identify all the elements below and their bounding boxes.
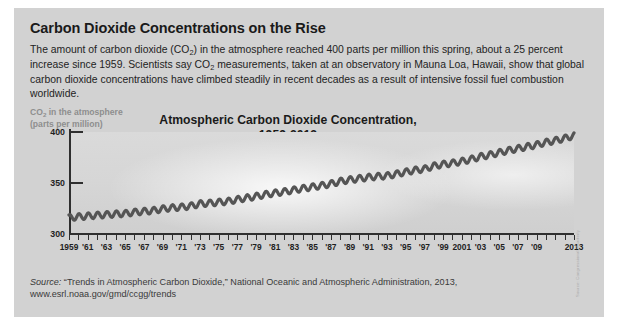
page-title: Carbon Dioxide Concentrations on the Ris… [30, 20, 588, 36]
x-axis-tick-label: '03 [475, 242, 486, 252]
x-axis-tick-label: '83 [288, 242, 299, 252]
plot-area: 300350400 1959'61'63'65'67'69'71'73'75'7… [69, 132, 574, 234]
x-axis-tick [415, 235, 416, 240]
x-axis-tick [387, 235, 388, 240]
x-axis-tick [275, 235, 276, 240]
x-axis-tick-label: '97 [419, 242, 430, 252]
x-axis-tick [396, 235, 397, 240]
x-axis-tick [565, 235, 566, 240]
x-axis-tick [350, 235, 351, 240]
x-axis-tick [527, 235, 528, 240]
source-note: Source: “Trends in Atmospheric Carbon Di… [30, 276, 586, 301]
x-axis-tick [97, 235, 98, 240]
x-axis-tick [340, 235, 341, 240]
x-axis-tick [312, 235, 313, 240]
x-axis-tick-label: '93 [381, 242, 392, 252]
x-axis-tick [106, 235, 107, 240]
x-axis-tick [359, 235, 360, 240]
x-axis-tick [378, 235, 379, 240]
x-axis-tick [518, 235, 519, 240]
x-axis-tick [499, 235, 500, 240]
x-axis-tick-label: '77 [232, 242, 243, 252]
x-axis-tick [153, 235, 154, 240]
x-axis-tick [69, 235, 70, 240]
x-axis-tick-label: '71 [176, 242, 187, 252]
x-axis-tick [134, 235, 135, 240]
x-axis-tick-label: '87 [325, 242, 336, 252]
x-axis-tick [443, 235, 444, 240]
body-paragraph: The amount of carbon dioxide (CO2) in th… [30, 43, 590, 101]
x-axis-tick-label: '63 [101, 242, 112, 252]
x-axis-tick [125, 235, 126, 240]
x-axis-tick [116, 235, 117, 240]
y-axis-caption: CO2 in the atmosphere(parts per million) [30, 107, 123, 129]
x-axis-tick [172, 235, 173, 240]
y-axis-caption-subscript: 2 [43, 111, 46, 118]
y-axis-caption-part-1: CO [30, 107, 43, 117]
x-axis-tick [424, 235, 425, 240]
y-axis-tick-label: 350 [50, 178, 65, 188]
infographic-panel: Carbon Dioxide Concentrations on the Ris… [14, 8, 604, 317]
x-axis-tick-label: 2001 [452, 242, 471, 252]
source-text: “Trends in Atmospheric Carbon Dioxide,” … [30, 277, 457, 299]
x-axis-tick-label: '99 [437, 242, 448, 252]
x-axis-tick [434, 235, 435, 240]
x-axis-tick [555, 235, 556, 240]
x-axis-tick [181, 235, 182, 240]
y-axis-caption-part-2: in the atmosphere [46, 107, 122, 117]
y-axis-caption-units: (parts per million) [30, 119, 103, 129]
x-axis-tick-label: '79 [250, 242, 261, 252]
x-axis-tick-label: '89 [344, 242, 355, 252]
x-axis-tick [406, 235, 407, 240]
x-axis-tick [284, 235, 285, 240]
x-axis-tick [303, 235, 304, 240]
x-axis-tick [452, 235, 453, 240]
x-axis-tick [368, 235, 369, 240]
x-axis-tick [228, 235, 229, 240]
x-axis-tick [537, 235, 538, 240]
x-axis-tick-label: 1959 [60, 242, 79, 252]
x-axis-tick [322, 235, 323, 240]
x-axis-tick [219, 235, 220, 240]
x-axis-tick-label: '07 [512, 242, 523, 252]
x-axis-tick-label: '05 [494, 242, 505, 252]
x-axis-tick [144, 235, 145, 240]
x-axis-tick [509, 235, 510, 240]
y-axis-tick-label: 400 [50, 127, 65, 137]
y-axis-tick-label: 300 [50, 229, 65, 239]
x-axis-tick-label: '09 [531, 242, 542, 252]
x-axis-tick-label: '75 [213, 242, 224, 252]
x-axis-tick [200, 235, 201, 240]
x-axis-tick-label: '91 [363, 242, 374, 252]
x-axis-tick [163, 235, 164, 240]
x-axis-tick [490, 235, 491, 240]
x-axis-tick [237, 235, 238, 240]
x-axis-tick [265, 235, 266, 240]
co2-series-line [69, 132, 574, 234]
deck-part-1: The amount of carbon dioxide (CO [30, 44, 189, 55]
x-axis-tick-label: '61 [82, 242, 93, 252]
x-axis-tick [247, 235, 248, 240]
x-axis-tick [256, 235, 257, 240]
x-axis-tick [331, 235, 332, 240]
x-axis-tick [78, 235, 79, 240]
x-axis-tick-label: '67 [138, 242, 149, 252]
co2-subscript-1: 2 [189, 48, 193, 57]
x-axis-tick-label: '85 [306, 242, 317, 252]
x-axis-tick-label: '65 [119, 242, 130, 252]
x-axis-tick-label: '73 [194, 242, 205, 252]
x-axis-tick [88, 235, 89, 240]
x-axis-tick-label: '95 [400, 242, 411, 252]
x-axis-tick [191, 235, 192, 240]
x-axis-tick [480, 235, 481, 240]
x-axis-tick-label: '81 [269, 242, 280, 252]
x-axis-tick [471, 235, 472, 240]
x-axis-tick [462, 235, 463, 240]
source-label: Source: [30, 277, 61, 287]
x-axis-tick [293, 235, 294, 240]
series-path [69, 133, 574, 220]
x-axis-tick-label: '69 [157, 242, 168, 252]
chart: CO2 in the atmosphere(parts per million)… [30, 107, 588, 259]
x-axis-tick [546, 235, 547, 240]
x-axis-tick [209, 235, 210, 240]
